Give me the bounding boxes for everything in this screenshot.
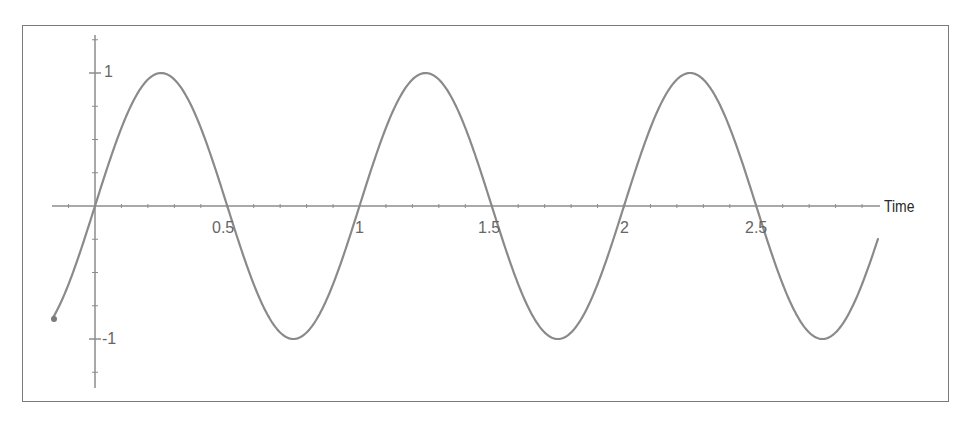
curve-start-marker	[51, 316, 57, 322]
x-tick-label-2-5: 2.5	[745, 220, 767, 236]
x-tick-label-0-5: 0.5	[212, 220, 234, 236]
y-tick-label-1: 1	[104, 64, 113, 80]
y-tick-label-neg1: -1	[102, 331, 116, 347]
x-tick-label-2: 2	[620, 220, 629, 236]
x-tick-label-1: 1	[355, 220, 364, 236]
sine-wave-plot	[0, 0, 964, 425]
x-tick-label-1-5: 1.5	[478, 220, 500, 236]
x-axis-title: Time	[884, 198, 914, 215]
